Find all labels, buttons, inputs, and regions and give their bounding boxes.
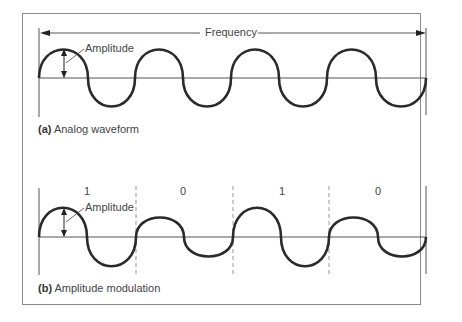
amplitude-arrow-down-icon-b [61,230,67,237]
bit-label-4: 0 [375,185,381,197]
amplitude-modulation-panel [39,186,426,276]
arrowhead-right-icon [416,30,426,36]
amplitude-label-b: Amplitude [85,201,134,213]
frequency-label: Frequency [205,26,257,38]
bit-label-2: 0 [180,185,186,197]
amplitude-arrow-down-icon [61,71,67,78]
amplitude-label-a: Amplitude [85,42,134,54]
caption-a: (a) Analog waveform [38,123,139,135]
caption-b: (b) Amplitude modulation [38,282,160,294]
bit-label-3: 1 [279,185,285,197]
bit-label-1: 1 [84,185,90,197]
arrowhead-left-icon [40,30,50,36]
waveform-diagram [0,0,462,322]
